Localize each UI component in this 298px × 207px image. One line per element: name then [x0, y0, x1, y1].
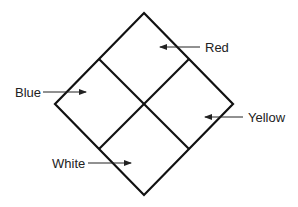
label-blue: Blue — [15, 85, 41, 100]
label-white: White — [52, 156, 85, 171]
label-red: Red — [205, 40, 229, 55]
label-yellow: Yellow — [248, 110, 286, 125]
diamond-diagram: Red Blue Yellow White — [0, 0, 298, 207]
